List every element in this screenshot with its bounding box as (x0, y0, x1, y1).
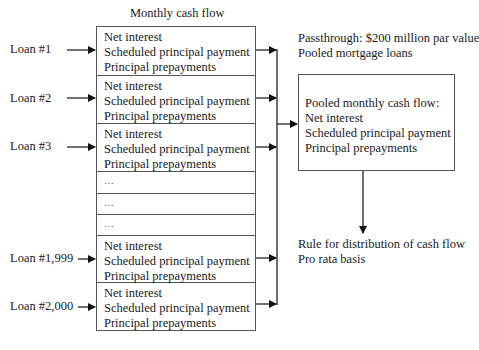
connector-arrows (0, 0, 466, 350)
